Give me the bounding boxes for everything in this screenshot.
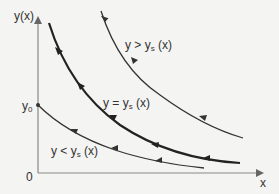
arrow-icon xyxy=(77,82,85,90)
y0-label: y0 xyxy=(22,99,33,114)
curve-upper xyxy=(101,11,243,138)
curve-lower xyxy=(36,103,204,168)
trajectory-diagram: y(x) x 0 y0 y > ys (x) y = ys (x) y < ys… xyxy=(0,0,279,194)
origin-label: 0 xyxy=(26,170,33,184)
arrow-icon xyxy=(155,157,162,163)
y-axis-label: y(x) xyxy=(14,9,34,23)
curve-lower-label: y < ys (x) xyxy=(51,144,98,159)
curve-separatrix-label: y = ys (x) xyxy=(103,96,150,111)
arrow-icon xyxy=(131,57,138,64)
curve-upper-label: y > ys (x) xyxy=(125,38,172,53)
x-axis-label: x xyxy=(260,176,266,190)
